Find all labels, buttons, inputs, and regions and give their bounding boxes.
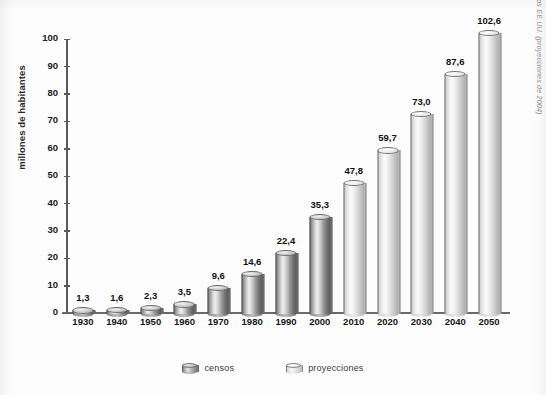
bar-value-label: 73,0	[412, 96, 431, 107]
bar-value-label: 3,5	[178, 286, 191, 297]
chart-legend: censosproyecciones	[0, 356, 546, 380]
bar-group: 1,31,62,33,59,614,622,435,347,859,773,08…	[66, 40, 506, 314]
legend-item-proy[interactable]: proyecciones	[286, 363, 363, 374]
cylinder-body	[479, 33, 502, 314]
cylinder-body	[377, 150, 400, 314]
cylinder-icon	[377, 150, 398, 314]
x-axis-label-1990: 1990	[269, 316, 303, 327]
x-axis-label-1930: 1930	[66, 316, 100, 327]
y-tick-label: 60	[47, 142, 58, 153]
y-tick-label: 70	[47, 114, 58, 125]
bar-value-label: 1,3	[76, 292, 89, 303]
cylinder-top	[106, 307, 127, 313]
cylinder-icon	[309, 217, 330, 314]
y-tick-label: 30	[47, 224, 58, 235]
x-axis-label-2000: 2000	[303, 316, 337, 327]
cylinder-body	[309, 217, 332, 314]
bar-value-label: 1,6	[110, 292, 123, 303]
cylinder-top	[182, 363, 197, 368]
cylinder-body	[242, 274, 265, 314]
bar-value-label: 22,4	[277, 235, 296, 246]
cylinder-icon	[479, 33, 500, 314]
cylinder-top	[445, 71, 466, 77]
x-axis-label-1980: 1980	[235, 316, 269, 327]
cylinder-icon	[411, 114, 432, 314]
x-axis-label-1950: 1950	[134, 316, 168, 327]
cylinder-top	[286, 363, 301, 368]
y-tick-label: 20	[47, 251, 58, 262]
x-axis-label-2010: 2010	[337, 316, 371, 327]
legend-item-censos[interactable]: censos	[182, 363, 234, 374]
x-axis-label-2050: 2050	[472, 316, 506, 327]
x-axis-label-1960: 1960	[168, 316, 202, 327]
cylinder-top	[479, 30, 500, 36]
cylinder-top	[208, 285, 229, 291]
cylinder-icon	[208, 288, 229, 314]
bar-value-label: 14,6	[243, 256, 262, 267]
cylinder-icon	[343, 183, 364, 314]
y-tick-label: 40	[47, 197, 58, 208]
cylinder-icon	[445, 74, 466, 314]
y-tick-label: 90	[47, 60, 58, 71]
cylinder-icon	[140, 308, 161, 314]
source-note: Fuente: Oficina del Censo de los EE.UU. …	[535, 0, 544, 118]
cylinder-body	[411, 114, 434, 314]
cylinder-icon	[286, 363, 301, 374]
cylinder-icon	[242, 274, 263, 314]
bar-value-label: 9,6	[212, 270, 225, 281]
bar-value-label: 87,6	[446, 56, 465, 67]
cylinder-top	[72, 307, 93, 313]
cylinder-icon	[72, 310, 93, 314]
cylinder-body	[208, 288, 231, 314]
plot-area: 0102030405060708090100 1,31,62,33,59,614…	[66, 40, 506, 314]
y-tick-label: 80	[47, 87, 58, 98]
legend-label: proyecciones	[308, 363, 363, 373]
cylinder-body	[445, 74, 468, 314]
x-axis-label-2040: 2040	[438, 316, 472, 327]
bar-value-label: 47,8	[344, 165, 363, 176]
y-tick-label: 10	[47, 279, 58, 290]
x-axis-label-2030: 2030	[404, 316, 438, 327]
cylinder-icon	[106, 310, 127, 314]
y-tick-label: 100	[42, 32, 58, 43]
cylinder-top	[377, 147, 398, 153]
bar-value-label: 102,6	[477, 15, 501, 26]
y-tick-label: 50	[47, 169, 58, 180]
cylinder-icon	[182, 363, 197, 374]
legend-label: censos	[204, 363, 234, 373]
cylinder-icon	[174, 304, 195, 314]
population-bar-chart: millones de habitantes 01020304050607080…	[0, 0, 546, 340]
x-axis-labels: 1930194019501960197019801990200020102020…	[66, 316, 506, 334]
x-axis-label-1970: 1970	[201, 316, 235, 327]
cylinder-icon	[275, 253, 296, 314]
y-axis-title: millones de habitantes	[16, 53, 27, 183]
y-tick-label: 0	[53, 306, 58, 317]
bar-value-label: 59,7	[378, 132, 397, 143]
x-axis-label-1940: 1940	[100, 316, 134, 327]
x-axis-label-2020: 2020	[371, 316, 405, 327]
bar-value-label: 2,3	[144, 290, 157, 301]
cylinder-body	[343, 183, 366, 314]
cylinder-body	[275, 253, 298, 314]
cylinder-top	[174, 301, 195, 307]
bar-value-label: 35,3	[311, 199, 330, 210]
